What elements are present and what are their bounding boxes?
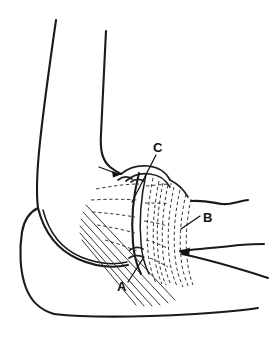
label-c: C — [153, 140, 163, 155]
elbow-line-drawing: C B A — [0, 0, 279, 337]
label-b: B — [203, 210, 212, 225]
anatomy-figure: C B A — [0, 0, 279, 337]
figure-background — [0, 0, 279, 337]
label-a: A — [117, 279, 127, 294]
